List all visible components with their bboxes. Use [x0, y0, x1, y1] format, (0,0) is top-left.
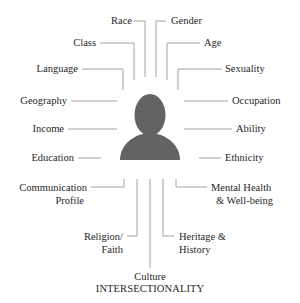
- label-ability: Ability: [236, 122, 266, 135]
- intersectionality-diagram: Race Gender Class Age Language Sexuality…: [0, 0, 300, 303]
- label-culture: Culture: [120, 270, 180, 283]
- label-heritage-history: Heritage & History: [179, 230, 226, 256]
- label-occupation: Occupation: [232, 94, 280, 107]
- label-geography: Geography: [20, 94, 67, 107]
- label-communication-profile: Communication Profile: [17, 181, 87, 207]
- label-education: Education: [31, 151, 74, 164]
- diagram-title: INTERSECTIONALITY: [0, 283, 300, 294]
- label-class: Class: [73, 36, 96, 49]
- label-age: Age: [204, 36, 222, 49]
- label-sexuality: Sexuality: [225, 62, 265, 75]
- label-gender: Gender: [171, 14, 202, 27]
- label-income: Income: [33, 122, 65, 135]
- label-race: Race: [111, 14, 132, 27]
- label-ethnicity: Ethnicity: [225, 151, 264, 164]
- label-religion-faith: Religion/ Faith: [84, 230, 123, 256]
- label-mental-health: Mental Health & Well-being: [211, 181, 273, 207]
- label-language: Language: [37, 62, 78, 75]
